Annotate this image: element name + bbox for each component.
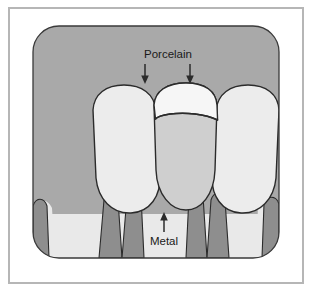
illustration-container: Porcelain Metal: [0, 0, 312, 292]
tooth-right: [212, 85, 279, 213]
papilla-far-left: [33, 199, 49, 258]
figure-root: Porcelain Metal: [0, 0, 312, 292]
porcelain-label-text: Porcelain: [144, 48, 192, 60]
metal-label-text: Metal: [150, 235, 178, 247]
dental-crown-diagram: Porcelain Metal: [0, 0, 312, 292]
papilla-far-right: [262, 197, 279, 258]
tooth-left: [93, 85, 160, 213]
